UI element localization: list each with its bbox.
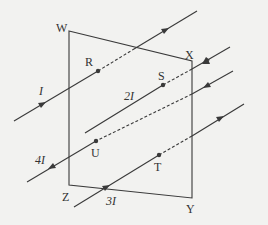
wire-t-hidden xyxy=(159,136,192,155)
wire-u-upper xyxy=(192,71,233,94)
point-t-label: T xyxy=(154,161,161,173)
wire-s-hidden xyxy=(163,69,192,85)
diagram-svg xyxy=(0,0,268,225)
arrow-r-lower-icon xyxy=(38,102,46,108)
current-s-label: 2I xyxy=(124,90,134,102)
point-t-dot xyxy=(157,153,161,157)
current-r-label: I xyxy=(39,85,43,97)
arrow-u-lower-icon xyxy=(48,163,56,169)
wire-t-lower xyxy=(74,155,159,207)
current-t-label: 3I xyxy=(106,195,116,207)
point-u-dot xyxy=(94,139,98,143)
wire-r-hidden xyxy=(98,49,134,71)
diagram-canvas: W X Y Z R S U T I 2I 4I 3I xyxy=(0,0,268,225)
arrow-r-upper-icon xyxy=(161,28,169,34)
arrow-u-upper-icon xyxy=(203,82,211,88)
current-u-label: 4I xyxy=(35,154,45,166)
corner-w-label: W xyxy=(56,22,67,34)
point-s-label: S xyxy=(158,70,165,82)
corner-z-label: Z xyxy=(62,191,69,203)
corner-x-label: X xyxy=(185,49,194,61)
corner-y-label: Y xyxy=(186,203,195,215)
point-s-dot xyxy=(161,83,165,87)
wire-s-upper xyxy=(192,47,230,69)
point-u-label: U xyxy=(91,147,100,159)
arrow-t-lower-icon xyxy=(102,185,110,191)
wire-r-lower xyxy=(14,71,98,121)
point-r-dot xyxy=(96,69,100,73)
point-r-label: R xyxy=(85,56,93,68)
